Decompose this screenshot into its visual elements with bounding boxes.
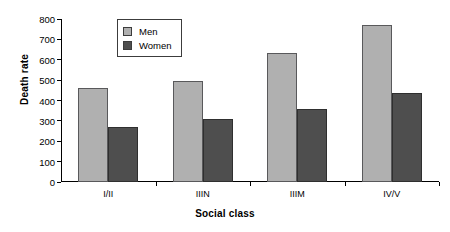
y-axis-tick xyxy=(57,59,61,60)
bar-men-3 xyxy=(362,25,392,182)
y-axis-tick-label: 700 xyxy=(39,34,55,45)
legend: Men Women xyxy=(117,19,182,57)
y-axis-tick-label: 600 xyxy=(39,54,55,65)
y-axis-tick xyxy=(57,100,61,101)
bar-men-0 xyxy=(78,88,108,182)
x-axis-category-label: IIIM xyxy=(290,189,305,199)
x-axis-category-label: I/II xyxy=(103,189,113,199)
legend-swatch-men-icon xyxy=(123,27,132,36)
y-axis-tick-label: 500 xyxy=(39,75,55,86)
legend-item-women: Women xyxy=(123,38,172,52)
bar-women-2 xyxy=(297,109,327,182)
x-axis-category-label: IV/V xyxy=(383,189,400,199)
y-axis-tick xyxy=(57,182,61,183)
y-axis-tick xyxy=(57,141,61,142)
y-axis-tick-label: 0 xyxy=(50,177,55,188)
y-axis-tick-label: 800 xyxy=(39,14,55,25)
y-axis-tick xyxy=(57,161,61,162)
y-axis-tick-label: 400 xyxy=(39,95,55,106)
bar-women-0 xyxy=(108,127,138,182)
x-axis-tick xyxy=(439,182,440,186)
x-axis-tick xyxy=(250,182,251,186)
y-axis-tick-label: 100 xyxy=(39,156,55,167)
y-axis-tick xyxy=(57,80,61,81)
bar-women-3 xyxy=(392,93,422,182)
y-axis-tick xyxy=(57,19,61,20)
x-axis-tick xyxy=(156,182,157,186)
y-axis-tick-label: 300 xyxy=(39,115,55,126)
x-axis-tick xyxy=(345,182,346,186)
legend-swatch-women-icon xyxy=(123,41,132,50)
y-axis-tick xyxy=(57,120,61,121)
y-axis-line xyxy=(61,19,62,182)
bar-chart: Death rate 0100200300400500600700800I/II… xyxy=(0,0,450,232)
bar-men-1 xyxy=(173,81,203,182)
x-axis-category-label: IIIN xyxy=(196,189,210,199)
bar-women-1 xyxy=(203,119,233,182)
y-axis-title: Death rate xyxy=(19,30,30,130)
y-axis-tick-label: 200 xyxy=(39,136,55,147)
x-axis-title: Social class xyxy=(0,208,450,219)
y-axis-tick xyxy=(57,39,61,40)
bar-men-2 xyxy=(267,53,297,182)
legend-item-men: Men xyxy=(123,24,172,38)
legend-label-men: Men xyxy=(139,26,157,37)
legend-label-women: Women xyxy=(139,40,172,51)
